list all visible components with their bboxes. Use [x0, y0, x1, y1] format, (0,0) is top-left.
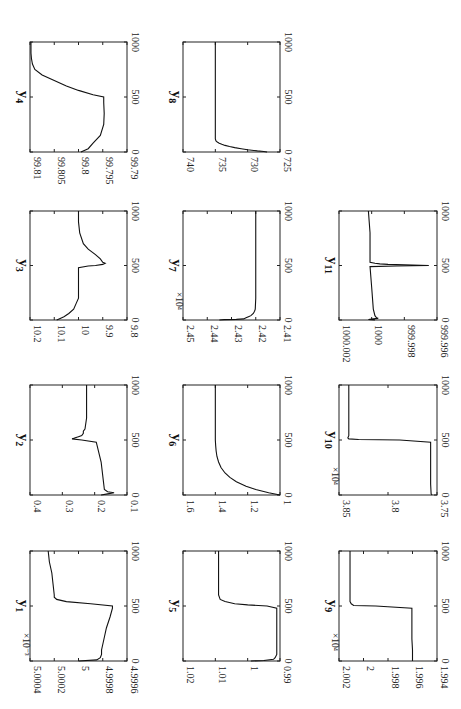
- value-tick-label: 99.79: [129, 157, 140, 180]
- subplot-title: y11: [323, 257, 341, 274]
- time-tick-label: 0: [440, 493, 451, 498]
- time-tick-label: 500: [130, 90, 141, 105]
- value-tick-label: 2.43: [233, 325, 244, 343]
- value-tick-label: 3.8: [390, 500, 401, 513]
- time-tick-label: 500: [283, 90, 294, 105]
- time-tick-label: 1000: [130, 541, 141, 561]
- subplot-title: y6: [167, 434, 185, 447]
- subplot-title: y2: [14, 434, 32, 447]
- time-tick-label: 500: [440, 258, 451, 273]
- time-tick-label: 0: [440, 318, 451, 323]
- time-tick-label: 500: [130, 258, 141, 273]
- value-tick-label: 5.0002: [56, 666, 67, 694]
- time-tick-label: 1000: [440, 375, 451, 395]
- value-tick-label: 2.42: [257, 325, 268, 343]
- series-line-y1: [48, 551, 112, 661]
- value-tick-label: 0.3: [64, 500, 75, 513]
- subplot-title: y3: [14, 259, 32, 272]
- time-tick-label: 1000: [440, 201, 451, 221]
- subplot-y8: 72573073574005001000y8: [167, 32, 294, 172]
- value-tick-label: 3.75: [439, 500, 450, 518]
- series-line-y6: [215, 385, 280, 495]
- value-tick-label: 2: [365, 666, 376, 671]
- time-tick-label: 1000: [283, 32, 294, 52]
- value-tick-label: 1.4: [217, 500, 228, 513]
- plot-frame: [30, 42, 127, 152]
- exponent-label: ×10⁴: [330, 633, 340, 652]
- value-tick-label: 10.1: [56, 325, 67, 343]
- value-tick-label: 4.9998: [104, 666, 115, 694]
- series-line-y11: [368, 211, 428, 320]
- value-tick-label: 1.998: [390, 666, 401, 689]
- series-line-y4: [31, 42, 104, 152]
- time-tick-label: 1000: [440, 541, 451, 561]
- subplot-title: y8: [167, 91, 185, 104]
- time-tick-label: 0: [283, 150, 294, 155]
- time-tick-label: 0: [130, 150, 141, 155]
- value-tick-label: 2.45: [185, 325, 196, 343]
- subplot-title: y5: [167, 600, 185, 613]
- time-tick-label: 1000: [130, 32, 141, 52]
- time-tick-label: 500: [440, 433, 451, 448]
- value-tick-label: 0.1: [129, 500, 140, 513]
- time-tick-label: 0: [130, 493, 141, 498]
- time-tick-label: 0: [440, 659, 451, 664]
- subplot-title: y4: [14, 91, 32, 104]
- value-tick-label: 730: [249, 157, 260, 172]
- time-tick-label: 0: [283, 318, 294, 323]
- subplot-y6: 11.21.41.605001000y6: [167, 375, 294, 513]
- time-tick-label: 500: [283, 258, 294, 273]
- subplot-title: y10: [323, 431, 341, 449]
- value-tick-label: 740: [185, 157, 196, 172]
- figure: 4.99964.999855.00025.000405001000y1×10⁻³…: [0, 0, 461, 709]
- time-tick-label: 500: [283, 599, 294, 614]
- subplot-y2: 0.10.20.30.405001000y2: [14, 375, 141, 513]
- time-tick-label: 500: [130, 433, 141, 448]
- value-tick-label: 1.996: [414, 666, 425, 689]
- exponent-label: ×10⁻³: [21, 633, 31, 656]
- value-tick-label: 725: [282, 157, 293, 172]
- subplot-title: y7: [167, 259, 185, 272]
- subplot-y4: 99.7999.79599.899.80599.8105001000y4: [14, 32, 141, 185]
- value-tick-label: 3.85: [341, 500, 352, 518]
- value-tick-label: 99.81: [32, 157, 43, 180]
- value-tick-label: 2.41: [282, 325, 293, 343]
- time-tick-label: 1000: [283, 375, 294, 395]
- value-tick-label: 0.2: [96, 500, 107, 513]
- value-tick-label: 1: [249, 666, 260, 671]
- time-tick-label: 0: [130, 318, 141, 323]
- time-tick-label: 1000: [283, 201, 294, 221]
- value-tick-label: 0.99: [282, 666, 293, 684]
- time-tick-label: 500: [440, 599, 451, 614]
- value-tick-label: 1000.002: [341, 325, 352, 363]
- time-tick-label: 0: [283, 493, 294, 498]
- value-tick-label: 1.02: [185, 666, 196, 684]
- value-tick-label: 999.998: [406, 325, 417, 358]
- value-tick-label: 735: [217, 157, 228, 172]
- value-tick-label: 99.8: [80, 157, 91, 175]
- value-tick-label: 5.0004: [32, 666, 43, 694]
- series-line-y2: [72, 385, 114, 495]
- time-tick-label: 500: [130, 599, 141, 614]
- value-tick-label: 9.9: [104, 325, 115, 338]
- value-tick-label: 5: [80, 666, 91, 671]
- value-tick-label: 2.44: [209, 325, 220, 343]
- time-tick-label: 1000: [130, 201, 141, 221]
- value-tick-label: 1: [282, 500, 293, 505]
- plot-frame: [183, 211, 280, 320]
- value-tick-label: 0.4: [32, 500, 43, 513]
- value-tick-label: 1000: [373, 325, 384, 345]
- subplot-title: y1: [14, 600, 32, 613]
- value-tick-label: 10: [80, 325, 91, 335]
- series-line-y3: [57, 211, 106, 320]
- subplot-y9: 1.9941.9961.99822.00205001000y9×10⁴: [323, 541, 451, 689]
- exponent-label: ×10⁴: [330, 467, 340, 486]
- value-tick-label: 1.2: [249, 500, 260, 513]
- plot-frame: [30, 211, 127, 320]
- time-tick-label: 1000: [283, 541, 294, 561]
- value-tick-label: 999.996: [439, 325, 450, 358]
- plot-frame: [183, 42, 280, 152]
- value-tick-label: 1.01: [217, 666, 228, 684]
- value-tick-label: 1.6: [185, 500, 196, 513]
- value-tick-label: 9.8: [129, 325, 140, 338]
